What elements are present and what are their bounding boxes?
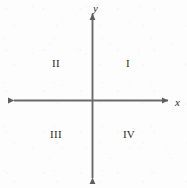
quadrant-label-iv: IV: [123, 129, 135, 140]
x-axis-label: x: [175, 97, 180, 108]
coordinate-plane-figure: y x II I III IV: [0, 0, 187, 188]
axes-graphic: [0, 0, 187, 188]
y-axis-label: y: [93, 3, 98, 14]
quadrant-label-iii: III: [50, 129, 62, 140]
quadrant-label-ii: II: [52, 58, 60, 69]
quadrant-label-i: I: [126, 58, 130, 69]
